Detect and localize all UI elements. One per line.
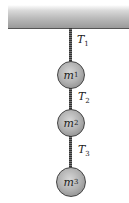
mass-3: m3 [56,167,86,197]
mass-2: m2 [57,109,85,137]
string-2 [69,88,72,110]
tension-label-3: T3 [78,143,90,158]
tension-label-1: T1 [77,33,89,48]
tension-label-2: T2 [78,90,90,105]
ceiling [8,5,129,29]
mass-1: m1 [57,61,85,89]
string-3 [69,136,72,168]
string-1 [69,28,72,62]
